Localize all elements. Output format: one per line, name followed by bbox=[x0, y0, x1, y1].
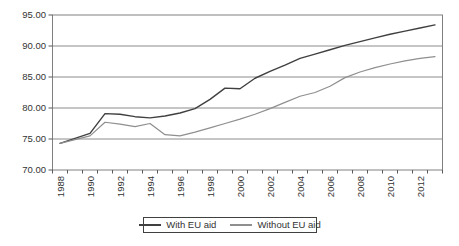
x-axis-tick-label: 2008 bbox=[355, 176, 366, 197]
y-axis-tick-label: 90.00 bbox=[22, 40, 46, 51]
x-axis-tick-label: 2012 bbox=[415, 176, 426, 197]
y-axis-tick-label: 85.00 bbox=[22, 71, 46, 82]
y-axis-tick-label: 95.00 bbox=[22, 9, 46, 20]
x-axis-tick-label: 2000 bbox=[235, 176, 246, 197]
legend-item-without-eu-aid: Without EU aid bbox=[230, 220, 320, 230]
y-axis-tick-label: 80.00 bbox=[22, 102, 46, 113]
x-axis-tick-label: 1990 bbox=[85, 176, 96, 197]
x-axis-tick-label: 1996 bbox=[175, 176, 186, 197]
without-eu-aid-line-swatch bbox=[230, 224, 252, 226]
legend-item-with-eu-aid: With EU aid bbox=[139, 220, 216, 230]
x-axis-tick-label: 2010 bbox=[385, 176, 396, 197]
legend-label-without-eu-aid: Without EU aid bbox=[257, 220, 320, 230]
x-axis-tick-label: 1994 bbox=[145, 176, 156, 197]
x-axis-tick-label: 1998 bbox=[205, 176, 216, 197]
chart-legend: With EU aid Without EU aid bbox=[143, 217, 317, 233]
legend-label-with-eu-aid: With EU aid bbox=[166, 220, 216, 230]
series-line-with-eu-aid bbox=[60, 25, 435, 143]
x-axis-tick-label: 2002 bbox=[265, 176, 276, 197]
x-axis-tick-label: 2006 bbox=[325, 176, 336, 197]
with-eu-aid-line-swatch bbox=[139, 224, 161, 226]
series-line-without-eu-aid bbox=[60, 57, 435, 144]
y-axis-tick-label: 75.00 bbox=[22, 133, 46, 144]
y-axis-tick-label: 70.00 bbox=[22, 164, 46, 175]
line-chart: 70.0075.0080.0085.0090.0095.001988199019… bbox=[0, 0, 459, 246]
plot-border bbox=[53, 15, 443, 170]
x-axis-tick-label: 1988 bbox=[55, 176, 66, 197]
x-axis-tick-label: 1992 bbox=[115, 176, 126, 197]
x-axis-tick-label: 2004 bbox=[295, 176, 306, 197]
plot-area: 70.0075.0080.0085.0090.0095.001988199019… bbox=[0, 0, 459, 246]
